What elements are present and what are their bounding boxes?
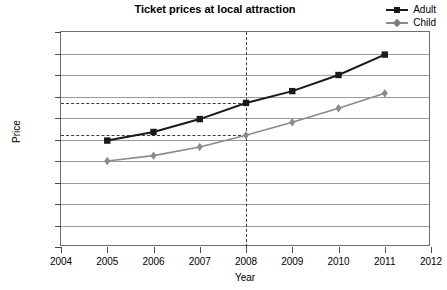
x-tick-label: 2009 bbox=[270, 256, 314, 267]
data-point-child-2009 bbox=[289, 118, 295, 126]
x-tick-mark bbox=[385, 247, 386, 253]
data-point-child-2010 bbox=[335, 104, 341, 112]
x-tick-label: 2012 bbox=[409, 256, 447, 267]
data-point-child-2005 bbox=[104, 157, 110, 165]
data-point-adult-2005 bbox=[104, 137, 110, 143]
legend-item-adult[interactable]: Adult bbox=[386, 3, 436, 16]
x-axis-title: Year bbox=[60, 272, 430, 283]
x-tick-label: 2004 bbox=[39, 256, 83, 267]
x-tick-mark bbox=[200, 247, 201, 253]
legend-marker-diamond-icon bbox=[386, 17, 408, 29]
legend-marker-square-icon bbox=[386, 4, 408, 16]
x-tick-mark bbox=[61, 247, 62, 253]
data-point-adult-2009 bbox=[289, 88, 295, 94]
x-tick-mark bbox=[431, 247, 432, 253]
plot-area: £0.00£1.00£2.00£3.00£4.00£5.00£6.00£7.00… bbox=[60, 31, 430, 246]
chart-legend: Adult Child bbox=[386, 3, 436, 29]
legend-item-child[interactable]: Child bbox=[386, 16, 436, 29]
x-tick-label: 2008 bbox=[224, 256, 268, 267]
x-tick-mark bbox=[107, 247, 108, 253]
data-point-adult-2008 bbox=[243, 100, 249, 106]
x-tick-mark bbox=[246, 247, 247, 253]
data-point-adult-2006 bbox=[150, 129, 156, 135]
legend-label-child: Child bbox=[413, 17, 436, 29]
x-tick-mark bbox=[154, 247, 155, 253]
x-tick-label: 2006 bbox=[132, 256, 176, 267]
y-axis-title: Price bbox=[11, 102, 22, 162]
series-layer bbox=[61, 32, 431, 247]
data-point-child-2006 bbox=[150, 151, 156, 159]
data-point-child-2007 bbox=[197, 143, 203, 151]
x-tick-label: 2010 bbox=[317, 256, 361, 267]
x-tick-mark bbox=[292, 247, 293, 253]
x-tick-label: 2007 bbox=[178, 256, 222, 267]
data-point-adult-2010 bbox=[335, 72, 341, 78]
chart-title: Ticket prices at local attraction bbox=[95, 3, 335, 15]
data-point-adult-2011 bbox=[382, 51, 388, 57]
x-tick-label: 2005 bbox=[85, 256, 129, 267]
data-point-adult-2007 bbox=[197, 116, 203, 122]
legend-label-adult: Adult bbox=[413, 4, 436, 16]
series-line-adult bbox=[107, 55, 385, 141]
x-tick-mark bbox=[339, 247, 340, 253]
data-point-child-2011 bbox=[382, 89, 388, 97]
data-point-child-2008 bbox=[243, 131, 249, 139]
x-tick-label: 2011 bbox=[363, 256, 407, 267]
